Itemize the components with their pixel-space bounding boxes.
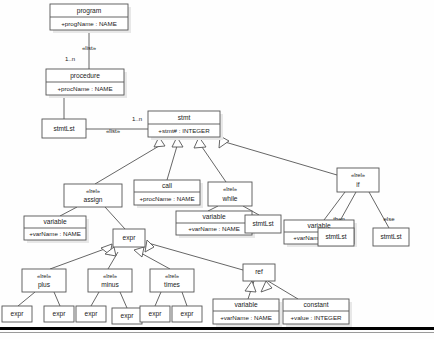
class-box-call[interactable]: call +procName : NAME bbox=[134, 180, 203, 208]
plus-stereotype: «lrel» bbox=[37, 273, 51, 279]
class-box-expr-plus-left[interactable]: expr bbox=[2, 306, 32, 322]
bottom-rule-thin bbox=[0, 332, 434, 333]
stmtlst1-class-name: stmtLst bbox=[53, 125, 74, 132]
variable-ref-class-name: variable bbox=[234, 301, 257, 308]
expr-class-name: expr bbox=[123, 234, 137, 242]
inherit-arrowhead-ref bbox=[145, 240, 154, 252]
call-class-name: call bbox=[162, 182, 172, 189]
while-class-name: while bbox=[221, 195, 237, 202]
class-box-assign[interactable]: «lrel» assign bbox=[64, 184, 122, 207]
variable-assign-attribute: +varName : NAME bbox=[29, 230, 81, 237]
edge-label-list-stmtlst-stmt: «list» bbox=[106, 128, 121, 134]
edge-if-else-stmtlst bbox=[369, 192, 389, 228]
constant-attribute: +value : INTEGER bbox=[290, 314, 342, 321]
inherit-arrowhead-variable bbox=[245, 281, 256, 292]
class-box-if[interactable]: «lrel» if bbox=[337, 168, 379, 192]
edge-label-list-program-procedure: «list» bbox=[82, 45, 97, 51]
minus-stereotype: «lrel» bbox=[103, 273, 117, 279]
plus-class-name: plus bbox=[38, 281, 51, 289]
class-box-stmtlst-then[interactable]: stmtLst bbox=[318, 228, 354, 246]
edge-label-multiplicity-program-procedure: 1..n bbox=[65, 56, 75, 62]
class-box-minus[interactable]: «lrel» minus bbox=[88, 269, 132, 292]
bottom-rule-thick bbox=[0, 327, 434, 330]
edge-assign-expr bbox=[105, 207, 125, 229]
class-box-while[interactable]: «lrel» while bbox=[208, 182, 252, 206]
uml-class-diagram: «list» 1..n «list» 1..n then else progra… bbox=[0, 0, 434, 339]
class-box-expr-minus-right[interactable]: expr bbox=[112, 308, 142, 324]
bottom-rule bbox=[0, 327, 434, 333]
class-box-stmt[interactable]: stmt +stmt# : INTEGER bbox=[148, 111, 223, 140]
stmtlst2-class-name: stmtLst bbox=[252, 220, 273, 227]
call-attribute: +procName : NAME bbox=[139, 195, 194, 202]
program-attribute: +progName : NAME bbox=[61, 20, 117, 27]
class-box-stmtlst-procedure[interactable]: stmtLst bbox=[42, 119, 86, 138]
class-box-stmtlst-else[interactable]: stmtLst bbox=[373, 228, 409, 246]
edge-if-stmt bbox=[225, 142, 337, 175]
class-box-times[interactable]: «lrel» times bbox=[150, 269, 194, 292]
inherit-arrowhead-times bbox=[134, 247, 144, 257]
constant-class-name: constant bbox=[304, 301, 329, 308]
stmt-attribute: +stmt# : INTEGER bbox=[158, 127, 210, 134]
expr3-class-name: expr bbox=[85, 310, 99, 318]
times-class-name: times bbox=[164, 281, 180, 288]
if-class-name: if bbox=[356, 181, 359, 188]
procedure-class-name: procedure bbox=[70, 72, 100, 80]
program-class-name: program bbox=[77, 7, 102, 15]
variable-ref-attribute: +varName : NAME bbox=[220, 314, 272, 321]
expr2-class-name: expr bbox=[53, 310, 67, 318]
stmtlst3-class-name: stmtLst bbox=[325, 233, 346, 240]
edge-plus-expr bbox=[50, 247, 110, 269]
class-box-variable-ref[interactable]: variable +varName : NAME bbox=[213, 299, 282, 327]
edge-label-multiplicity-stmtlst-stmt: 1..n bbox=[132, 116, 142, 122]
class-box-ref[interactable]: ref bbox=[243, 264, 275, 281]
class-box-expr-times-left[interactable]: expr bbox=[140, 306, 170, 322]
assign-stereotype: «lrel» bbox=[86, 188, 100, 194]
stmtlst4-class-name: stmtLst bbox=[380, 233, 401, 240]
edge-label-else: else bbox=[383, 216, 395, 222]
edge-constant-ref bbox=[268, 281, 298, 299]
variable-assign-class-name: variable bbox=[43, 218, 66, 225]
variable-while-class-name: variable bbox=[202, 213, 225, 220]
edge-while-stmt bbox=[202, 147, 226, 182]
minus-class-name: minus bbox=[101, 281, 119, 288]
edge-minus-expr-right bbox=[120, 292, 127, 308]
class-box-expr-plus-right[interactable]: expr bbox=[44, 306, 74, 322]
edge-times-expr-left bbox=[155, 292, 161, 306]
edge-ref-expr bbox=[148, 243, 243, 270]
expr6-class-name: expr bbox=[181, 310, 195, 318]
edge-assign-stmt bbox=[95, 146, 159, 184]
edge-call-stmt bbox=[167, 146, 177, 180]
edge-plus-expr-right bbox=[54, 292, 60, 306]
procedure-attribute: +procName : NAME bbox=[57, 85, 112, 92]
expr4-class-name: expr bbox=[121, 312, 135, 320]
class-box-expr-minus-left[interactable]: expr bbox=[76, 306, 106, 322]
class-box-variable-assign[interactable]: variable +varName : NAME bbox=[24, 216, 89, 243]
stmt-class-name: stmt bbox=[178, 114, 191, 121]
edge-while-variable bbox=[208, 206, 218, 211]
times-stereotype: «lrel» bbox=[165, 273, 179, 279]
expr5-class-name: expr bbox=[149, 310, 163, 318]
class-box-program[interactable]: program +progName : NAME bbox=[50, 4, 131, 33]
while-stereotype: «lrel» bbox=[223, 186, 237, 192]
if-stereotype: «lrel» bbox=[351, 172, 365, 178]
expr1-class-name: expr bbox=[11, 310, 25, 318]
edge-plus-expr-left bbox=[18, 292, 35, 306]
diagram-canvas: «list» 1..n «list» 1..n then else progra… bbox=[0, 0, 434, 339]
edge-times-expr bbox=[139, 252, 170, 269]
class-box-procedure[interactable]: procedure +procName : NAME bbox=[46, 69, 127, 98]
class-box-stmtlst-while[interactable]: stmtLst bbox=[245, 215, 281, 233]
variable-while-attribute: +varName : NAME bbox=[188, 225, 240, 232]
class-box-constant[interactable]: constant +value : INTEGER bbox=[283, 299, 352, 327]
edge-assign-variable bbox=[60, 207, 77, 216]
assign-class-name: assign bbox=[83, 196, 102, 204]
class-box-expr[interactable]: expr bbox=[113, 229, 145, 247]
edge-minus-expr-left bbox=[91, 292, 99, 306]
class-box-plus[interactable]: «lrel» plus bbox=[22, 269, 66, 292]
class-box-expr-times-right[interactable]: expr bbox=[172, 306, 202, 322]
edge-times-expr-right bbox=[182, 292, 187, 306]
class-box-variable-while[interactable]: variable +varName : NAME bbox=[176, 211, 255, 238]
ref-class-name: ref bbox=[255, 268, 263, 275]
